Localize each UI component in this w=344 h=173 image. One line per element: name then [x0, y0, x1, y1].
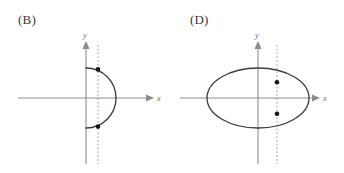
- y-axis-arrowhead-d: [254, 41, 261, 49]
- x-axis-label-d: x: [322, 93, 327, 103]
- plot-d: x y: [172, 0, 344, 173]
- marker-dot-upper-b: [96, 67, 101, 72]
- figure-sheet: (B) x y (D) x y: [0, 0, 344, 173]
- x-axis-arrowhead-d: [312, 94, 320, 101]
- y-axis-label-b: y: [82, 30, 87, 40]
- x-axis-arrowhead-b: [146, 94, 154, 101]
- marker-dot-lower-b: [96, 124, 101, 129]
- y-axis-label-d: y: [254, 30, 259, 40]
- figure-panel-b: (B) x y: [0, 0, 172, 173]
- y-axis-arrowhead-b: [82, 41, 89, 49]
- figure-panel-d: (D) x y: [172, 0, 344, 173]
- marker-dot-lower-d: [275, 112, 280, 117]
- plot-b: x y: [0, 0, 172, 173]
- x-axis-label-b: x: [156, 93, 161, 103]
- marker-dot-upper-d: [275, 80, 280, 85]
